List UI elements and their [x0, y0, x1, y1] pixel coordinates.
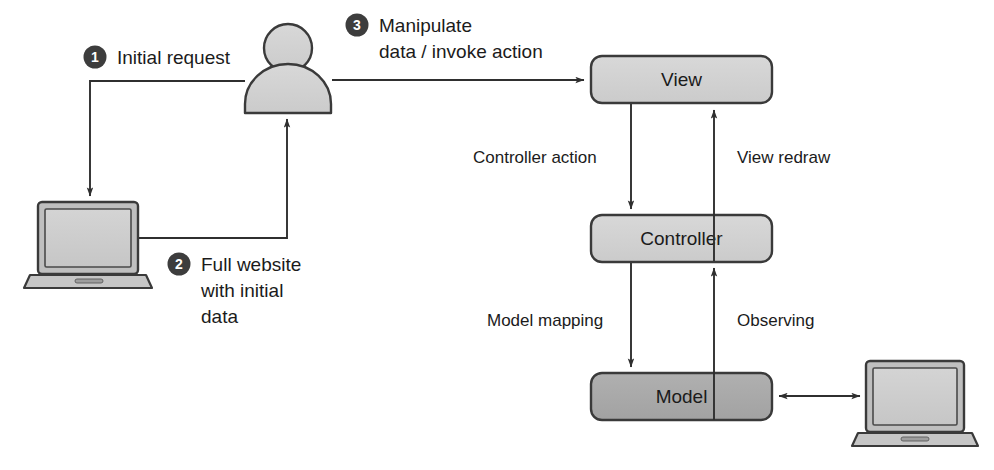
view-label: View [661, 69, 702, 90]
edge-label-view-redraw: View redraw [737, 148, 831, 167]
edge-initial-request [90, 81, 245, 196]
node-model[interactable]: Model [591, 373, 772, 420]
node-controller[interactable]: Controller [591, 215, 772, 262]
full-website-line [139, 119, 287, 238]
step-label-2-line-1: Full website [201, 254, 301, 275]
step-label-2-line-2: with initial [200, 280, 283, 301]
badge-number-2: 2 [175, 256, 183, 272]
controller-label: Controller [640, 228, 723, 249]
laptop-icon [24, 202, 152, 288]
edge-label-observing: Observing [737, 311, 814, 330]
diagram-canvas: View Controller Model [0, 0, 994, 470]
badge-number-1: 1 [91, 49, 99, 65]
step-label-1-line-1: Initial request [117, 47, 231, 68]
step-label-3-line-2: data / invoke action [379, 41, 543, 62]
step-badge-1: 1 Initial request [84, 46, 231, 69]
node-view[interactable]: View [591, 56, 772, 103]
person-icon [245, 24, 331, 113]
step-badge-2: 2 Full website with initial data [168, 253, 302, 328]
step-badge-3: 3 Manipulate data / invoke action [346, 14, 543, 63]
laptop-icon [852, 361, 978, 446]
edge-label-controller-action: Controller action [473, 148, 597, 167]
model-label: Model [656, 386, 708, 407]
edge-label-model-mapping: Model mapping [487, 311, 603, 330]
initial-request-line [90, 81, 245, 196]
step-label-3-line-1: Manipulate [379, 15, 472, 36]
edge-full-website [139, 119, 287, 238]
step-label-2-line-3: data [201, 306, 238, 327]
badge-number-3: 3 [353, 17, 361, 33]
mvc-flow-diagram: View Controller Model [0, 0, 994, 470]
